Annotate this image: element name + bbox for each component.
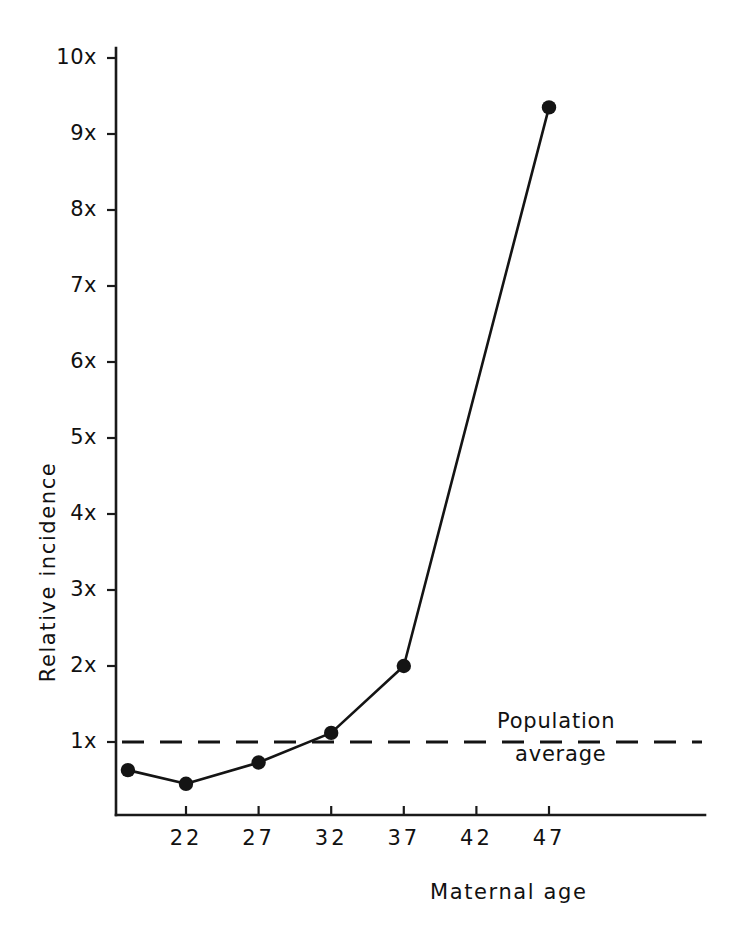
data-point-marker — [542, 100, 556, 114]
y-tick-label: 9x — [0, 123, 97, 144]
data-point-marker — [324, 726, 338, 740]
chart-container: 1x2x3x4x5x6x7x8x9x10x 222732374247 Relat… — [0, 0, 754, 926]
chart-plot-area — [0, 0, 754, 926]
relative-incidence-line — [128, 107, 549, 783]
y-tick-label: 6x — [0, 351, 97, 372]
x-tick-label: 37 — [364, 828, 444, 849]
x-tick-label: 27 — [219, 828, 299, 849]
data-markers-group — [121, 100, 556, 791]
y-tick-label: 7x — [0, 275, 97, 296]
data-point-marker — [251, 755, 265, 769]
data-series-group — [128, 107, 549, 783]
y-tick-label: 8x — [0, 199, 97, 220]
y-axis-title: Relative incidence — [36, 452, 60, 692]
x-tick-label: 32 — [291, 828, 371, 849]
data-point-marker — [121, 763, 135, 777]
population-average-label-line2: average — [497, 738, 615, 771]
x-tick-label: 47 — [509, 828, 589, 849]
tick-marks-group — [107, 58, 549, 815]
y-tick-label: 1x — [0, 731, 97, 752]
y-tick-label: 5x — [0, 427, 97, 448]
population-average-label-line1: Population — [497, 709, 615, 733]
population-average-annotation: Population average — [497, 705, 615, 770]
axes-group — [116, 48, 705, 815]
x-tick-label: 22 — [146, 828, 226, 849]
x-tick-label: 42 — [436, 828, 516, 849]
data-point-marker — [179, 777, 193, 791]
y-tick-label: 10x — [0, 47, 97, 68]
x-axis-title: Maternal age — [430, 880, 587, 904]
data-point-marker — [397, 659, 411, 673]
